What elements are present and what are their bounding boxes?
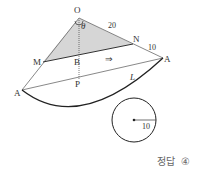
label-L: L: [129, 72, 135, 82]
label-N: N: [133, 34, 140, 44]
label-radius-10: 10: [142, 122, 150, 131]
label-20: 20: [108, 21, 116, 30]
shaded-triangle: [43, 18, 133, 62]
label-A-left: A: [14, 88, 21, 98]
label-M: M: [33, 57, 41, 67]
arrow-icon: ⇒: [105, 54, 113, 64]
answer-value: ④: [181, 156, 190, 167]
label-A-right: A: [164, 54, 171, 64]
label-O: O: [74, 5, 81, 15]
label-theta: θ: [81, 21, 86, 31]
cone-net-diagram: O θ 20 N 10 A M B ⇒ A P L 10 정답 ④: [0, 0, 206, 186]
label-10-NA: 10: [148, 43, 156, 52]
label-P: P: [75, 79, 80, 89]
answer-label: 정답: [157, 156, 175, 167]
label-B: B: [74, 57, 80, 67]
